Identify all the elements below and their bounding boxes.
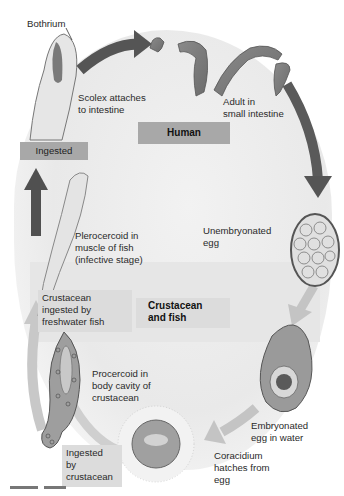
scolex-illustration-icon [30,28,77,140]
arrow-scolex-to-adult-icon [80,30,152,70]
arrow-coracidium-to-crustacean-icon [70,400,118,450]
arrow-adult-to-egg-icon [287,84,332,198]
adult-tapeworm-icon [150,38,290,96]
label-coracidium: Coracidium hatches from egg [214,450,269,486]
box-ingested-by-crustacean: Ingested by crustacean [62,445,122,487]
label-bothrium: Bothrium [27,18,65,30]
procercoid-icon [42,332,80,448]
host-box-crustacean-fish: Crustacean and fish [136,298,230,328]
unembryonated-egg-icon [291,214,339,286]
arrow-egg-to-embryonated-icon [288,286,314,326]
box-ingested: Ingested [20,142,88,160]
arrow-embryonated-to-coracidium-icon [204,408,256,444]
box-crustacean-ingested: Crustacean ingested by freshwater fish [38,290,132,332]
label-plerocercoid: Plerocercoid in muscle of fish (infectiv… [75,230,143,266]
label-adult: Adult in small intestine [223,96,284,120]
life-cycle-diagram: Bothrium Scolex attaches to intestine Ad… [0,0,344,496]
label-scolex: Scolex attaches to intestine [78,92,146,116]
figure-caption-cropped [10,486,190,496]
coracidium-icon [118,406,194,482]
label-unembryonated-egg: Unembryonated egg [203,225,271,249]
embryonated-egg-icon [260,325,312,412]
label-embryonated-egg: Embryonated egg in water [251,420,308,444]
label-procercoid: Procercoid in body cavity of crustacean [92,368,151,404]
arrow-to-ingested-icon [24,168,48,236]
host-box-human: Human [138,122,230,144]
